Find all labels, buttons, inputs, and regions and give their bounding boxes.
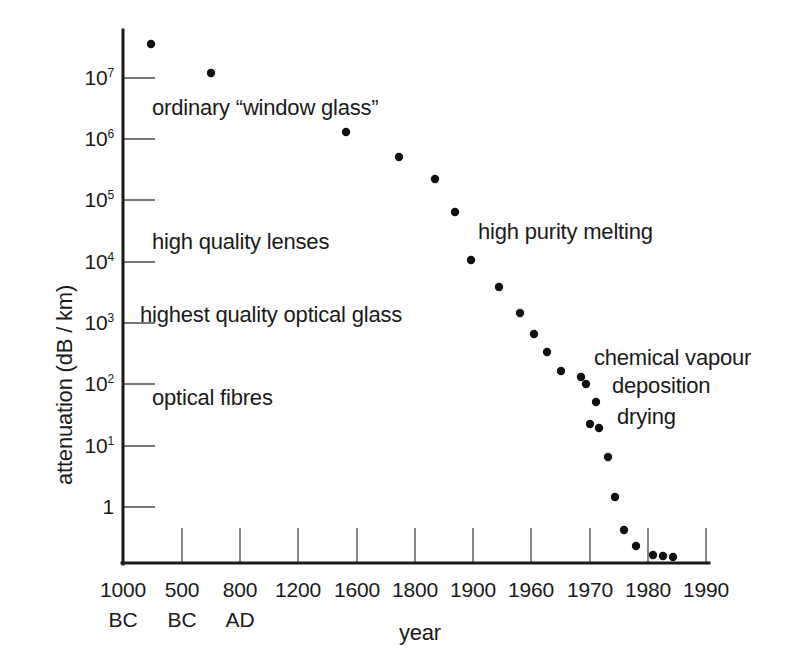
- data-point: [586, 420, 594, 428]
- y-tick-exponent: 4: [108, 250, 114, 264]
- y-axis-tick-marks: [123, 78, 155, 507]
- annotation-label: optical fibres: [152, 385, 273, 411]
- x-tick-label: 1600: [334, 578, 380, 602]
- data-point: [592, 398, 600, 406]
- data-point: [431, 175, 439, 183]
- y-tick-label: 106: [70, 127, 114, 151]
- y-tick-exponent: 6: [108, 127, 114, 141]
- x-tick-label: 1990: [683, 578, 729, 602]
- x-tick-label: 1980: [625, 578, 671, 602]
- data-point: [516, 309, 524, 317]
- x-tick-label: 1970: [567, 578, 613, 602]
- data-point: [557, 367, 565, 375]
- data-point: [395, 153, 403, 161]
- data-point: [649, 551, 657, 559]
- y-tick-exponent: 1: [108, 434, 114, 448]
- data-point: [495, 283, 503, 291]
- data-point: [577, 373, 585, 381]
- annotation-label: ordinary “window glass”: [152, 95, 379, 121]
- x-tick-label: 1200: [275, 578, 321, 602]
- y-tick-label: 1: [70, 495, 114, 519]
- data-point: [611, 493, 619, 501]
- x-tick-sublabel: AD: [226, 608, 255, 632]
- plot-canvas: [0, 0, 809, 665]
- y-tick-exponent: 2: [108, 372, 114, 386]
- data-point: [604, 453, 612, 461]
- x-tick-sublabel: BC: [109, 608, 138, 632]
- data-point: [632, 542, 640, 550]
- x-axis-tick-marks: [123, 528, 706, 563]
- x-tick-label: 1000: [100, 578, 146, 602]
- data-point: [467, 256, 475, 264]
- data-point: [669, 553, 677, 561]
- y-tick-label: 107: [70, 66, 114, 90]
- data-point: [595, 424, 603, 432]
- y-tick-label: 104: [70, 250, 114, 274]
- annotation-label: high purity melting: [478, 219, 653, 245]
- data-point: [451, 208, 459, 216]
- annotation-label: chemical vapour: [594, 345, 751, 371]
- data-point: [659, 552, 667, 560]
- x-axis-title: year: [399, 620, 441, 646]
- data-point: [207, 69, 215, 77]
- y-tick-label: 105: [70, 188, 114, 212]
- annotation-label: highest quality optical glass: [140, 302, 402, 328]
- x-tick-label: 1800: [392, 578, 438, 602]
- attenuation-vs-year-chart: 1071061051041031021011 1000BC500BC800AD1…: [0, 0, 809, 665]
- data-point: [620, 526, 628, 534]
- data-point: [530, 330, 538, 338]
- annotation-label: drying: [617, 404, 676, 430]
- x-tick-sublabel: BC: [168, 608, 197, 632]
- data-point: [147, 40, 155, 48]
- annotation-label: high quality lenses: [152, 229, 329, 255]
- x-tick-label: 500: [165, 578, 199, 602]
- y-tick-exponent: 3: [108, 311, 114, 325]
- data-point: [543, 348, 551, 356]
- y-tick-exponent: 7: [108, 66, 114, 80]
- data-point: [582, 380, 590, 388]
- x-tick-label: 1900: [450, 578, 496, 602]
- x-tick-label: 800: [223, 578, 257, 602]
- y-tick-exponent: 5: [108, 188, 114, 202]
- data-point: [342, 128, 350, 136]
- x-tick-label: 1960: [508, 578, 554, 602]
- y-axis-title: attenuation (dB / km): [52, 285, 78, 485]
- annotation-label: deposition: [612, 373, 710, 399]
